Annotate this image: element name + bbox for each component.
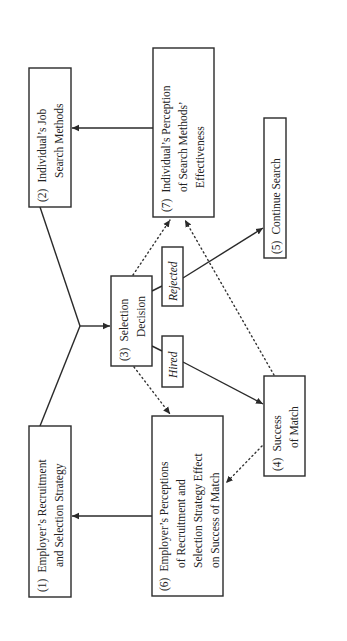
node-2-line-2: Search Methods — [53, 103, 65, 178]
node-4-line-2: of Match — [288, 406, 300, 448]
node-6-line-3: Selection Strategy Effect — [192, 452, 205, 568]
node-6-line-4: on Success of Match — [209, 472, 221, 568]
edge-rejected-to-5 — [183, 228, 263, 278]
node-6-line-2: of Recruitment and — [175, 479, 187, 568]
node-selection-decision: (3)Selection Decision — [111, 276, 152, 366]
node-7-line-2: of Search Methods’ — [177, 101, 189, 192]
node-1-line-2: and Selection Strategy — [53, 463, 66, 567]
edge-4-to-6 — [226, 446, 262, 483]
node-employer-recruitment-strategy: (1)Employer’s Recruitment and Selection … — [29, 426, 71, 597]
edge-2-to-junction — [40, 207, 80, 326]
edge-label-rejected: Rejected — [162, 247, 183, 306]
edge-hired-to-4 — [183, 362, 263, 404]
rejected-label: Rejected — [167, 261, 180, 302]
edge-4-to-7 — [185, 220, 274, 375]
node-continue-search: (5)Continue Search — [264, 118, 286, 258]
node-4-line-1: (4)Success — [271, 415, 284, 471]
diagram-canvas: (2)Individual’s Job Search Methods (1)Em… — [0, 0, 347, 641]
node-7-line-3: Effectiveness — [194, 126, 206, 188]
edge-label-hired: Hired — [162, 336, 183, 387]
node-individual-job-search-methods: (2)Individual’s Job Search Methods — [29, 68, 71, 207]
hired-label: Hired — [167, 351, 179, 379]
node-6-line-1: (6)Employer’s Perceptions — [158, 461, 171, 591]
edge-1-to-junction — [40, 326, 80, 426]
node-individual-perception: (7)Individual’s Perception of Search Met… — [153, 48, 214, 217]
edge-3-to-hired — [152, 346, 162, 351]
node-employer-perceptions: (6)Employer’s Perceptions of Recruitment… — [152, 416, 223, 596]
node-3-line-1: (3)Selection — [118, 299, 131, 361]
node-success-of-match: (4)Success of Match — [264, 376, 305, 476]
node-1-line-1: (1)Employer’s Recruitment — [36, 459, 49, 592]
edge-3-to-rejected — [152, 286, 162, 291]
node-7-line-1: (7)Individual’s Perception — [160, 85, 173, 212]
node-3-line-2: Decision — [135, 296, 147, 337]
